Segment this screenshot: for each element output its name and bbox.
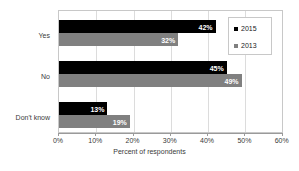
x-axis-title: Percent of respondents	[0, 148, 299, 156]
chart-legend: 2015 2013	[228, 17, 272, 55]
x-tick	[207, 133, 208, 136]
bar-2015-dont-know[interactable]: 13%	[59, 102, 107, 115]
x-tick-label-10: 10%	[88, 137, 102, 145]
legend-label: 2015	[241, 25, 257, 33]
x-tick-label-0: 0%	[53, 137, 63, 145]
x-tick	[95, 133, 96, 136]
category-label-dont-know: Don't know	[16, 114, 50, 122]
bar-value-label: 49%	[225, 77, 239, 84]
legend-swatch-icon	[234, 44, 238, 48]
bar-2013-dont-know[interactable]: 19%	[59, 115, 130, 128]
x-tick	[58, 133, 59, 136]
x-tick-label-50: 50%	[237, 137, 251, 145]
x-tick	[244, 133, 245, 136]
x-tick-label-30: 30%	[163, 137, 177, 145]
bar-value-label: 32%	[161, 36, 175, 43]
legend-label: 2013	[241, 42, 257, 50]
legend-item-2015[interactable]: 2015	[234, 23, 271, 35]
x-tick	[282, 133, 283, 136]
bar-2013-yes[interactable]: 32%	[59, 33, 178, 46]
x-axis: 0% 10% 20% 30% 40% 50% 60%	[58, 133, 283, 134]
legend-swatch-icon	[234, 27, 238, 31]
legend-item-2013[interactable]: 2013	[234, 40, 271, 52]
category-label-yes: Yes	[39, 32, 50, 40]
x-tick	[170, 133, 171, 136]
bar-value-label: 45%	[210, 64, 224, 71]
bar-value-label: 19%	[113, 118, 127, 125]
bar-2015-no[interactable]: 45%	[59, 61, 227, 74]
x-tick-label-20: 20%	[126, 137, 140, 145]
bar-value-label: 13%	[90, 105, 104, 112]
bar-2015-yes[interactable]: 42%	[59, 20, 216, 33]
y-axis-category-labels: Yes No Don't know	[0, 10, 54, 133]
x-tick-label-60: 60%	[275, 137, 289, 145]
bar-chart: Yes No Don't know 42% 32% 45% 49%	[0, 0, 299, 171]
bar-value-label: 42%	[198, 23, 212, 30]
x-tick	[133, 133, 134, 136]
x-tick-label-40: 40%	[200, 137, 214, 145]
bar-2013-no[interactable]: 49%	[59, 74, 242, 87]
category-label-no: No	[41, 73, 50, 81]
